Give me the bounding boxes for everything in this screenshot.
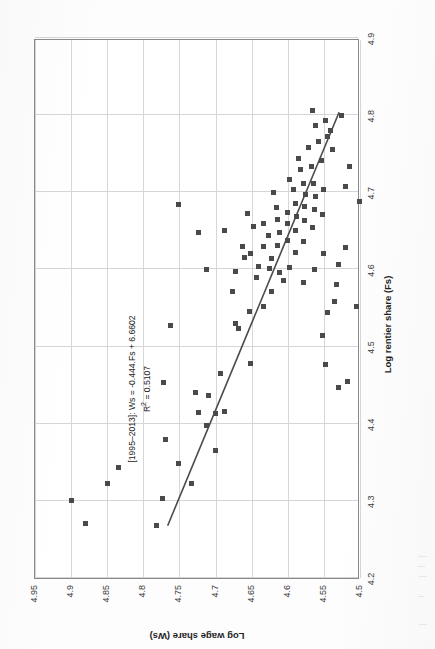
x-tick-label: 4.8 [366, 110, 376, 123]
rotated-figure-wrapper: [1995–2013]: Ws = -0.444.Fs + 6.6602 R2 … [0, 0, 435, 649]
scanned-page: [1995–2013]: Ws = -0.444.Fs + 6.6602 R2 … [0, 0, 435, 649]
scan-artifact [418, 566, 425, 567]
x-tick-label: 4.6 [366, 264, 376, 277]
scatter-chart: [1995–2013]: Ws = -0.444.Fs + 6.6602 R2 … [0, 0, 435, 649]
x-tick-label: 4.7 [366, 187, 376, 200]
y-tick-label: 4.8 [137, 585, 147, 617]
x-tick-label: 4.2 [366, 573, 376, 586]
scan-artifact [419, 624, 427, 625]
scan-artifact [418, 556, 427, 557]
trendline [35, 40, 358, 578]
y-tick-label: 4.9 [65, 585, 75, 617]
y-tick-label: 4.5 [354, 585, 364, 617]
y-tick-label: 4.85 [101, 585, 111, 617]
scan-artifact [419, 576, 427, 577]
x-tick-label: 4.3 [366, 496, 376, 509]
y-axis-title: Log wage share (Ws) [149, 631, 244, 642]
regression-annotation: [1995–2013]: Ws = -0.444.Fs + 6.6602 R2 … [125, 315, 153, 462]
y-tick-label: 4.95 [29, 585, 39, 617]
x-tick-label: 4.9 [366, 33, 376, 46]
gridline-horizontal [360, 40, 361, 578]
y-tick-label: 4.75 [173, 585, 183, 617]
y-tick-label: 4.6 [282, 585, 292, 617]
plot-area: [1995–2013]: Ws = -0.444.Fs + 6.6602 R2 … [34, 39, 359, 579]
scan-artifact [418, 596, 424, 597]
x-tick-label: 4.4 [366, 418, 376, 431]
regression-equation: [1995–2013]: Ws = -0.444.Fs + 6.6602 [126, 315, 136, 462]
y-tick-label: 4.7 [210, 585, 220, 617]
y-tick-label: 4.65 [246, 585, 256, 617]
y-tick-label: 4.55 [318, 585, 328, 617]
x-tick-label: 4.5 [366, 341, 376, 354]
x-axis-title: Log rentier share (Fs) [382, 0, 393, 649]
gridline-vertical [35, 37, 358, 38]
r-squared-label: R2 = 0.5107 [139, 315, 154, 462]
